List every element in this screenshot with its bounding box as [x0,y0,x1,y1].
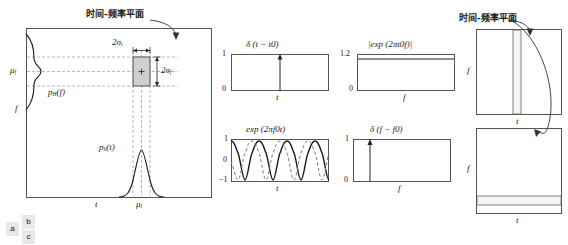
panel-c-top-xlabel: t [516,117,519,126]
panel-c-bottom-ylabel: f [467,164,470,173]
plot-delta-t-graphics [218,40,338,110]
panel-a-sigma-t-label: 2σt [112,38,123,48]
panel-a-axis-y-label: f [15,104,18,113]
plot-exp-f: |exp (2πt0f)| 1.2 0 f [340,40,458,110]
panel-b: δ (t − t0) 1 0 t |exp (2πt0f)| 1.2 0 f e… [218,0,458,215]
plot-delta-f: δ (f − f0) 1 0 f [340,125,458,205]
figure-key-b: b [22,215,35,229]
panel-a-mu-t-label: μt [136,200,142,210]
panel-c-graphics [458,0,568,245]
plot-exp-t-graphics [218,125,343,205]
panel-c: 时间-频率平面 f t f t [458,0,568,245]
plot-delta-f-graphics [340,125,465,205]
figure-key-a: a [6,222,19,236]
panel-a: 时间-频率平面 [0,0,225,215]
plot-exp-f-graphics [340,40,465,110]
panel-c-bottom-xlabel: t [516,216,519,225]
panel-a-marginal-t-label: ph(t) [99,143,115,153]
panel-c-top-ylabel: f [467,66,470,75]
plot-delta-t: δ (t − t0) 1 0 t [218,40,333,110]
figure-key-c: c [22,230,35,244]
panel-a-axis-x-label: t [95,200,98,209]
panel-a-sigma-f-label: 2σf [161,66,172,76]
panel-a-marginal-f-label: pH(f) [48,88,65,98]
plot-exp-t: exp (2πf0t) 1 0 −1 t [218,125,336,205]
panel-a-mu-f-label: μfμf [10,66,16,76]
